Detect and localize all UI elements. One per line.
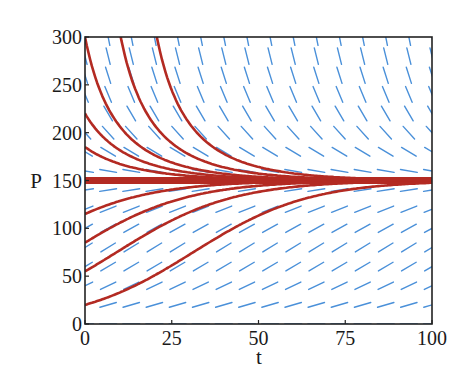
slope-segment — [378, 224, 393, 232]
y-tick-label: 150 — [52, 170, 82, 192]
slope-segment — [332, 262, 347, 271]
slope-segment — [170, 206, 186, 212]
slope-segment — [381, 106, 390, 121]
slope-segment — [123, 303, 139, 308]
slope-segment — [382, 87, 389, 103]
solution-curves — [85, 0, 432, 305]
slope-segment — [332, 282, 347, 289]
slope-segment — [400, 189, 417, 192]
slope-segment — [331, 169, 348, 172]
plot-area — [77, 0, 441, 324]
slope-segment — [405, 106, 414, 121]
y-tick-label: 200 — [52, 122, 82, 144]
slope-segment — [378, 303, 394, 308]
slope-segment — [355, 282, 370, 289]
slope-segment — [289, 106, 298, 121]
slope-segment — [402, 147, 417, 156]
slope-segment — [239, 224, 254, 232]
slope-segment — [332, 243, 346, 252]
slope-segment — [309, 147, 324, 156]
slope-segment — [106, 48, 110, 64]
slope-segment — [193, 224, 208, 232]
slope-segment — [335, 106, 344, 121]
slope-segment — [313, 87, 320, 103]
slope-segment — [378, 262, 393, 271]
slope-segment — [244, 87, 251, 103]
slope-segment — [401, 224, 416, 232]
slope-segment — [360, 67, 365, 83]
slope-segment — [263, 224, 278, 232]
slope-segment — [221, 67, 226, 83]
slope-segment — [217, 243, 231, 252]
slope-segment — [309, 262, 324, 271]
slope-segment — [383, 67, 388, 83]
slope-segment — [175, 48, 179, 64]
slope-segment — [152, 48, 156, 64]
slope-segment — [355, 206, 371, 212]
slope-segment — [152, 67, 157, 83]
slope-segment — [239, 206, 255, 212]
slope-segment — [286, 147, 301, 156]
slope-segment — [100, 303, 116, 308]
slope-segment — [354, 169, 371, 172]
slope-segment — [218, 126, 229, 139]
x-tick-label: 75 — [335, 327, 355, 349]
slope-segment — [222, 48, 226, 64]
slope-segment — [199, 48, 203, 64]
slope-segment — [285, 206, 301, 212]
slope-segment — [384, 48, 388, 64]
slope-segment — [290, 87, 297, 103]
slope-segment — [268, 48, 272, 64]
slope-segment — [361, 48, 365, 64]
slope-segment — [123, 189, 140, 192]
slope-segment — [309, 243, 323, 252]
slope-segment — [147, 243, 161, 252]
slope-segment — [358, 106, 367, 121]
slope-segment — [175, 67, 180, 83]
slope-segment — [192, 189, 209, 192]
slope-segment — [401, 282, 416, 289]
slope-segment — [334, 126, 345, 139]
slope-segment — [357, 126, 368, 139]
slope-segment — [332, 224, 347, 232]
y-tick-label: 250 — [52, 74, 82, 96]
slope-segment — [332, 206, 348, 212]
slope-segment — [337, 48, 341, 64]
slope-segment — [124, 224, 139, 232]
slope-segment — [262, 303, 278, 308]
slope-segment — [337, 67, 342, 83]
slope-segment — [239, 189, 256, 192]
slope-segment — [127, 106, 136, 121]
slope-segment — [100, 282, 115, 289]
slope-segment — [101, 243, 115, 252]
slope-segment — [331, 303, 347, 308]
slope-segment — [267, 87, 274, 103]
x-tick-label: 25 — [162, 327, 182, 349]
slope-segment — [105, 87, 112, 103]
slope-segment — [197, 87, 204, 103]
slope-segment — [106, 67, 111, 83]
slope-segment — [355, 262, 370, 271]
slope-segment — [355, 147, 370, 156]
slope-segment — [264, 126, 275, 139]
slope-segment — [286, 224, 301, 232]
slope-segment — [193, 262, 208, 271]
slope-segment — [241, 126, 252, 139]
solution-curve — [85, 147, 432, 180]
slope-segment — [332, 147, 347, 156]
slope-segment — [266, 106, 275, 121]
slope-segment — [147, 282, 162, 289]
slope-segment — [100, 169, 117, 172]
slope-segment — [170, 243, 184, 252]
slope-segment — [170, 224, 185, 232]
slope-segment — [377, 169, 394, 172]
slope-segment — [401, 303, 417, 308]
x-axis-label: t — [256, 345, 262, 369]
slope-segment — [308, 303, 324, 308]
slope-segment — [216, 303, 232, 308]
slope-segment — [355, 243, 369, 252]
slope-segment — [244, 67, 249, 83]
slope-segment — [192, 303, 208, 308]
slope-segment — [308, 169, 325, 172]
slope-segment — [219, 106, 228, 121]
